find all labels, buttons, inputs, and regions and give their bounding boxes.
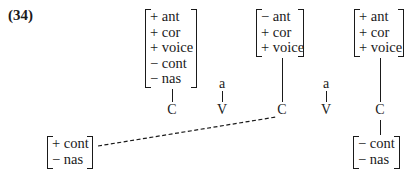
dashed-association-line <box>0 0 412 176</box>
